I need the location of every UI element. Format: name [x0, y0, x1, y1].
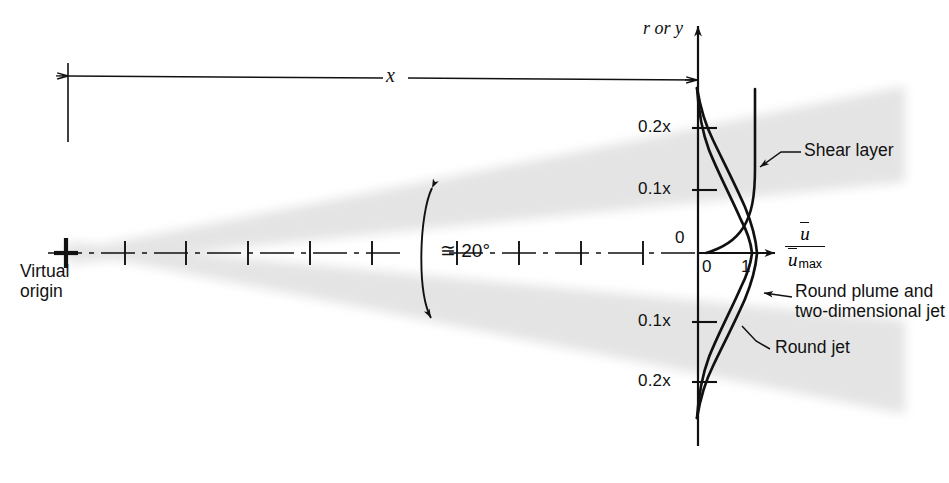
xaxis-tick-1: 1: [741, 257, 750, 276]
tick-label-lower-0.2x: 0.2x: [638, 371, 671, 390]
callout-shear-layer: Shear layer: [804, 141, 894, 161]
fraction-bar: [785, 246, 825, 247]
spread-angle-label: ≅ 20°: [440, 240, 490, 261]
velocity-ratio-denominator: umax: [785, 248, 825, 271]
x-dimension-line-left: [68, 76, 383, 78]
tick-label-upper-0.2x: 0.2x: [638, 117, 671, 136]
tick-label-zero: 0: [675, 228, 685, 247]
tick-label-upper-0.1x: 0.1x: [638, 179, 671, 198]
callout-round-plume: Round plume and two-dimensional jet: [795, 282, 945, 321]
x-dimension: [68, 63, 697, 142]
virtual-origin-label: Virtual origin: [20, 262, 69, 301]
x-dimension-line-right: [408, 78, 697, 80]
velocity-ratio-label: u umax: [785, 223, 825, 271]
x-distance-label: x: [386, 64, 395, 86]
jet-spreading-diagram: x r or y Virtual origin ≅ 20° 0.2x 0.1x …: [0, 0, 949, 483]
callout-round-jet: Round jet: [775, 338, 850, 358]
leader-round-plume: [764, 293, 792, 297]
vertical-axis-title: r or y: [643, 18, 683, 38]
tick-label-lower-0.1x: 0.1x: [638, 311, 671, 330]
xaxis-tick-0: 0: [702, 257, 711, 276]
velocity-ratio-numerator: u: [785, 223, 825, 245]
